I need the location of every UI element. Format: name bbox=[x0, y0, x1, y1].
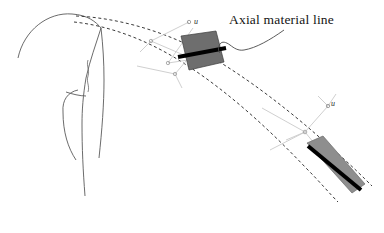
vessel-branch-lower bbox=[63, 112, 76, 160]
vessel-arch-outer bbox=[18, 14, 101, 58]
displacement-label-upper: u bbox=[194, 17, 198, 26]
diagram-svg bbox=[0, 0, 384, 233]
element-lower-group bbox=[307, 136, 365, 193]
vessel-descending-left bbox=[82, 28, 101, 196]
figure-canvas: Axial material line u u bbox=[0, 0, 384, 233]
axial-label-leader-line bbox=[219, 30, 285, 53]
axial-material-line-label: Axial material line bbox=[229, 12, 334, 28]
vessel-wall-texture bbox=[87, 60, 88, 92]
displacement-label-lower: u bbox=[331, 99, 335, 108]
dashed-centerline-group bbox=[74, 16, 372, 202]
vessel-descending-right bbox=[99, 28, 104, 158]
vessel-outline-group bbox=[18, 14, 104, 196]
